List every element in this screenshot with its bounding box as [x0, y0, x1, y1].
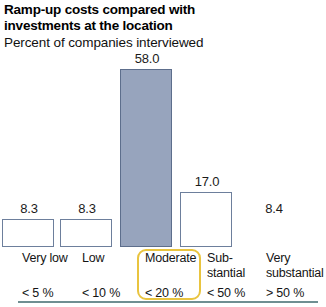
bar-very-low: [2, 219, 54, 247]
baseline-rule: [18, 301, 318, 303]
chart-title: Ramp-up costs compared with investments …: [4, 0, 322, 33]
category-axis: Very low < 5 % Low < 10 % Moderate < 20 …: [0, 249, 326, 307]
category-column-moderate: Moderate < 20 %: [141, 249, 203, 301]
bar-value-very-low: 8.3: [0, 202, 58, 216]
category-label-low: Low: [82, 251, 140, 266]
category-label-very-substantial: Very substantial: [266, 251, 326, 280]
bar-value-low: 8.3: [58, 202, 116, 216]
bar-value-substantial: 17.0: [178, 175, 236, 189]
bar-low: [60, 219, 112, 247]
category-range-low: < 10 %: [82, 286, 140, 300]
category-range-moderate: < 20 %: [145, 286, 203, 300]
chart-subtitle: Percent of companies interviewed: [4, 33, 322, 51]
bar-substantial: [180, 192, 232, 247]
category-column-very-low: Very low < 5 %: [18, 249, 80, 301]
category-range-very-low: < 5 %: [22, 286, 80, 300]
category-column-substantial: Sub- stantial < 50 %: [203, 249, 265, 301]
category-range-very-substantial: > 50 %: [266, 286, 324, 300]
bar-value-very-substantial: 8.4: [245, 202, 303, 216]
category-column-low: Low < 10 %: [78, 249, 140, 301]
category-label-very-low: Very low: [22, 251, 80, 266]
chart-header: Ramp-up costs compared with investments …: [4, 0, 322, 51]
bar-value-moderate: 58.0: [118, 52, 176, 66]
bar-moderate: [120, 69, 172, 247]
category-label-substantial: Sub- stantial: [207, 251, 265, 280]
category-column-very-substantial: Very substantial > 50 %: [262, 249, 326, 301]
category-range-substantial: < 50 %: [207, 286, 265, 300]
category-label-moderate: Moderate: [145, 251, 203, 266]
chart-plot-area: 8.3 8.3 58.0 17.0 8.4: [0, 52, 326, 247]
